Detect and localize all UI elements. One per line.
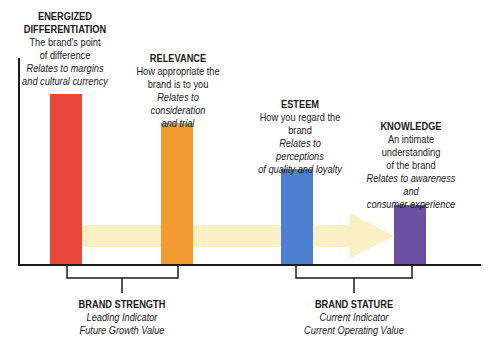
pillar-title: ENERGIZED (8, 10, 122, 23)
pillar-relates: consumer experience (363, 198, 460, 211)
group-title: BRAND STATURE (301, 298, 407, 311)
label-energized-differentiation: ENERGIZED DIFFERENTIATION The brand's po… (8, 10, 122, 88)
pillar-relates: and trial (132, 117, 224, 130)
group-line: Leading Indicator (74, 311, 171, 324)
label-relevance: RELEVANCE How appropriate the brand is t… (132, 52, 224, 130)
pillar-desc: understanding (363, 146, 460, 159)
label-esteem: ESTEEM How you regard the brand Relates … (256, 98, 344, 176)
pillar-relates: of quality and loyalty (256, 163, 344, 176)
group-label-brand-strength: BRAND STRENGTH Leading Indicator Future … (74, 298, 171, 337)
label-knowledge: KNOWLEDGE An intimate understanding of t… (363, 120, 460, 211)
pillar-desc: An intimate (363, 133, 460, 146)
group-line: Current Operating Value (301, 324, 407, 337)
pillar-desc: How appropriate the (132, 65, 224, 78)
pillar-relates: Relates to perceptions (256, 137, 344, 163)
group-line: Future Growth Value (74, 324, 171, 337)
pillar-relates: Relates to awareness and (363, 172, 460, 198)
group-title: BRAND STRENGTH (74, 298, 171, 311)
pillar-title: ESTEEM (256, 98, 344, 111)
pillar-desc: of difference (8, 49, 122, 62)
pillar-title: KNOWLEDGE (363, 120, 460, 133)
pillar-desc: brand (256, 124, 344, 137)
pillar-desc: of the brand (363, 159, 460, 172)
pillar-relates: and cultural currency (8, 75, 122, 88)
pillar-relates: Relates to consideration (132, 91, 224, 117)
pillar-desc: How you regard the (256, 111, 344, 124)
pillar-desc: The brand's point (8, 36, 122, 49)
group-line: Current Indicator (301, 311, 407, 324)
pillar-desc: brand is to you (132, 78, 224, 91)
pillar-title: RELEVANCE (132, 52, 224, 65)
pillar-relates: Relates to margins (8, 62, 122, 75)
group-label-brand-stature: BRAND STATURE Current Indicator Current … (301, 298, 407, 337)
pillar-title: DIFFERENTIATION (8, 23, 122, 36)
